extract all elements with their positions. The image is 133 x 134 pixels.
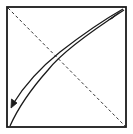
origami-diagram	[0, 0, 133, 134]
